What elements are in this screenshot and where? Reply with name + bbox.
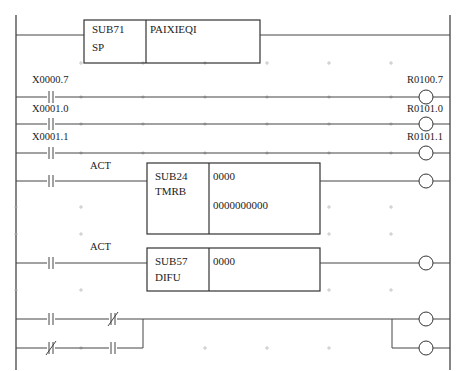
contact-x0000-7-label: X0000.7	[32, 74, 68, 86]
sub24-param2: 0000000000	[213, 199, 268, 212]
sub24-param1: 0000	[213, 170, 235, 183]
contact-x0001-1-label: X0001.1	[32, 131, 68, 143]
sub71-name: SP	[92, 41, 104, 54]
act-label-difu: ACT	[90, 241, 111, 253]
ladder-wiring	[0, 0, 465, 371]
sub57-param1: 0000	[213, 255, 235, 268]
sub24-code: SUB24	[155, 170, 187, 183]
contact-x0001-0-label: X0001.0	[32, 103, 68, 115]
coil-r0101-0-label: R0101.0	[407, 103, 443, 115]
sub71-code: SUB71	[92, 23, 124, 36]
sub71-param: PAIXIEQI	[150, 23, 197, 36]
sub24-name: TMRB	[155, 185, 186, 198]
grid-crosses	[14, 61, 393, 350]
ladder-diagram: SUB71 SP PAIXIEQI X0000.7 X0001.0 X0001.…	[0, 0, 465, 371]
sub57-code: SUB57	[155, 255, 187, 268]
coil-r0101-1-label: R0101.1	[407, 131, 443, 143]
sub57-name: DIFU	[155, 271, 181, 284]
act-label-tmrb: ACT	[90, 160, 111, 172]
coil-r0100-7-label: R0100.7	[407, 74, 443, 86]
